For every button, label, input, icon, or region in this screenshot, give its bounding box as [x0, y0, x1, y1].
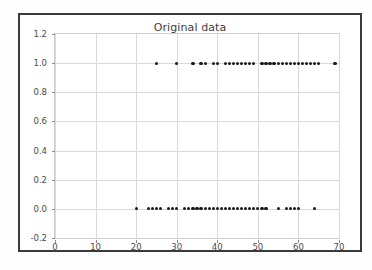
data-point	[264, 207, 267, 210]
data-point	[277, 207, 280, 210]
x-tick-label: 20	[131, 242, 142, 252]
gridline-vertical	[339, 34, 340, 238]
plot-area: 010203040506070-0.20.00.20.40.60.81.01.2	[54, 33, 340, 239]
y-tick-label: 0.0	[33, 204, 47, 214]
data-point	[248, 207, 251, 210]
y-tick-mark	[52, 209, 55, 210]
data-point	[167, 207, 170, 210]
data-point	[212, 62, 215, 65]
data-point	[224, 207, 227, 210]
data-point	[333, 62, 336, 65]
x-tick-label: 60	[293, 242, 304, 252]
data-point	[289, 207, 292, 210]
data-point	[228, 62, 231, 65]
data-point	[191, 62, 194, 65]
data-point	[159, 207, 162, 210]
data-point	[147, 207, 150, 210]
data-point	[285, 62, 288, 65]
data-point	[297, 207, 300, 210]
y-tick-label: -0.2	[30, 233, 47, 243]
data-point	[199, 207, 202, 210]
data-point	[260, 207, 263, 210]
gridline-vertical	[55, 34, 56, 238]
figure-canvas: Original data 010203040506070-0.20.00.20…	[20, 15, 360, 250]
data-point	[301, 62, 304, 65]
data-point	[212, 207, 215, 210]
data-point	[216, 207, 219, 210]
data-point	[232, 207, 235, 210]
y-tick-mark	[52, 63, 55, 64]
data-point	[309, 62, 312, 65]
data-point	[264, 62, 267, 65]
data-point	[228, 207, 231, 210]
gridline-horizontal	[55, 92, 339, 93]
y-tick-mark	[52, 34, 55, 35]
data-point	[199, 62, 202, 65]
x-tick-label: 10	[90, 242, 101, 252]
data-point	[281, 62, 284, 65]
data-point	[256, 207, 259, 210]
screenshot-root: Original data 010203040506070-0.20.00.20…	[0, 0, 372, 270]
data-point	[155, 62, 158, 65]
data-point	[204, 62, 207, 65]
data-point	[313, 207, 316, 210]
gridline-horizontal	[55, 121, 339, 122]
data-point	[305, 62, 308, 65]
data-point	[244, 62, 247, 65]
figure-frame: Original data 010203040506070-0.20.00.20…	[18, 13, 362, 252]
data-point	[289, 62, 292, 65]
x-tick-label: 0	[52, 242, 57, 252]
gridline-horizontal	[55, 151, 339, 152]
y-tick-label: 1.0	[33, 58, 47, 68]
y-tick-mark	[52, 121, 55, 122]
x-tick-label: 30	[171, 242, 182, 252]
data-point	[232, 62, 235, 65]
data-point	[236, 207, 239, 210]
y-tick-mark	[52, 180, 55, 181]
data-point	[240, 62, 243, 65]
data-point	[204, 207, 207, 210]
data-point	[155, 207, 158, 210]
data-point	[293, 62, 296, 65]
x-tick-label: 40	[212, 242, 223, 252]
data-point	[175, 62, 178, 65]
data-point	[183, 207, 186, 210]
data-point	[293, 207, 296, 210]
data-point	[236, 62, 239, 65]
y-tick-mark	[52, 238, 55, 239]
data-point	[216, 62, 219, 65]
data-point	[248, 62, 251, 65]
x-tick-label: 70	[334, 242, 345, 252]
data-point	[260, 62, 263, 65]
data-point	[252, 62, 255, 65]
data-point	[208, 207, 211, 210]
data-point	[175, 207, 178, 210]
data-point	[240, 207, 243, 210]
gridline-vertical	[96, 34, 97, 238]
data-point	[268, 62, 271, 65]
y-tick-label: 0.2	[33, 175, 47, 185]
data-point	[135, 207, 138, 210]
data-point	[220, 207, 223, 210]
data-point	[224, 62, 227, 65]
data-point	[277, 62, 280, 65]
data-point	[313, 62, 316, 65]
y-tick-label: 0.8	[33, 87, 47, 97]
y-tick-label: 0.4	[33, 146, 47, 156]
data-point	[297, 62, 300, 65]
data-point	[151, 207, 154, 210]
y-tick-label: 0.6	[33, 116, 47, 126]
x-tick-label: 50	[252, 242, 263, 252]
y-tick-label: 1.2	[33, 29, 47, 39]
data-point	[272, 62, 275, 65]
y-tick-mark	[52, 92, 55, 93]
data-point	[244, 207, 247, 210]
data-point	[171, 207, 174, 210]
data-point	[285, 207, 288, 210]
data-point	[252, 207, 255, 210]
gridline-horizontal	[55, 180, 339, 181]
data-point	[191, 207, 194, 210]
data-point	[317, 62, 320, 65]
data-point	[195, 207, 198, 210]
y-tick-mark	[52, 151, 55, 152]
